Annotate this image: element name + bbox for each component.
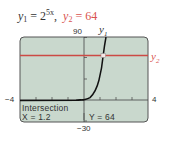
y-readout: Y = 64: [89, 113, 115, 122]
y2-line-subscript: 2: [156, 57, 160, 65]
y-min-label: −30: [77, 125, 91, 133]
x-max-label: 4: [152, 96, 156, 104]
y2-line-label: y2: [151, 51, 159, 65]
x-min-label: −4: [5, 96, 14, 104]
intersection-cursor: [101, 54, 106, 58]
x-readout: X = 1.2: [22, 113, 51, 122]
